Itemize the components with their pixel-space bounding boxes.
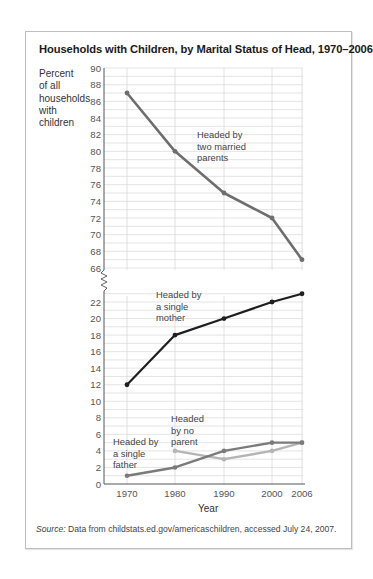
svg-text:18: 18: [90, 330, 101, 341]
data-point: [300, 440, 305, 445]
annotation-two-married-parents: parents: [197, 152, 229, 163]
tick-labels: 6668707274767880828486889002468101214161…: [90, 63, 312, 500]
series-line-headed-by-a-single-mother: [127, 294, 302, 385]
svg-text:70: 70: [90, 229, 101, 240]
svg-text:2006: 2006: [291, 488, 312, 499]
svg-text:1970: 1970: [116, 488, 137, 499]
annotation-single-father: Headed by: [113, 436, 159, 447]
annotation-single-mother: a single: [156, 301, 188, 312]
annotations: Headed bytwo marriedparentsHeaded bya si…: [113, 129, 246, 470]
annotation-single-mother: mother: [156, 312, 185, 323]
source-prefix: Source:: [36, 524, 66, 534]
svg-text:1990: 1990: [213, 488, 234, 499]
svg-text:68: 68: [90, 246, 101, 257]
data-point: [300, 257, 305, 262]
svg-text:76: 76: [90, 179, 101, 190]
data-point: [222, 316, 227, 321]
data-point: [270, 216, 275, 221]
data-point: [173, 465, 178, 470]
svg-text:1980: 1980: [164, 488, 185, 499]
data-point: [270, 440, 275, 445]
svg-text:10: 10: [90, 396, 101, 407]
x-axis-label: Year: [198, 503, 218, 514]
svg-text:66: 66: [90, 263, 101, 274]
svg-text:12: 12: [90, 379, 101, 390]
annotation-single-father: a single: [113, 448, 145, 459]
svg-text:80: 80: [90, 146, 101, 157]
svg-text:74: 74: [90, 196, 101, 207]
data-point: [173, 149, 178, 154]
data-point: [222, 449, 227, 454]
data-point: [222, 457, 227, 462]
svg-text:16: 16: [90, 346, 101, 357]
annotation-two-married-parents: Headed by: [197, 129, 243, 140]
svg-text:2000: 2000: [261, 488, 282, 499]
svg-text:84: 84: [90, 113, 101, 124]
data-point: [125, 91, 130, 96]
data-point: [222, 191, 227, 196]
svg-text:82: 82: [90, 129, 101, 140]
data-point: [300, 291, 305, 296]
data-point: [125, 473, 130, 478]
annotation-no-parent: by no: [171, 425, 194, 436]
data-point: [173, 333, 178, 338]
svg-text:86: 86: [90, 96, 101, 107]
svg-text:78: 78: [90, 163, 101, 174]
annotation-single-mother: Headed by: [156, 289, 202, 300]
annotation-no-parent: parent: [171, 436, 198, 447]
annotation-two-married-parents: two married: [197, 141, 246, 152]
svg-text:4: 4: [96, 445, 102, 456]
source-note: Source: Data from childstats.ed.gov/amer…: [36, 524, 336, 534]
svg-text:14: 14: [90, 363, 101, 374]
svg-text:90: 90: [90, 63, 101, 74]
svg-text:8: 8: [96, 412, 101, 423]
data-point: [173, 449, 178, 454]
svg-text:0: 0: [96, 479, 101, 490]
svg-text:6: 6: [96, 429, 101, 440]
svg-text:72: 72: [90, 213, 101, 224]
annotation-single-father: father: [113, 459, 137, 470]
svg-text:2: 2: [96, 462, 101, 473]
annotation-no-parent: Headed: [171, 413, 204, 424]
data-point: [270, 300, 275, 305]
svg-text:88: 88: [90, 79, 101, 90]
svg-text:22: 22: [90, 297, 101, 308]
svg-text:20: 20: [90, 313, 101, 324]
data-point: [270, 449, 275, 454]
source-text: Data from childstats.ed.gov/americaschil…: [66, 524, 337, 534]
data-point: [125, 382, 130, 387]
